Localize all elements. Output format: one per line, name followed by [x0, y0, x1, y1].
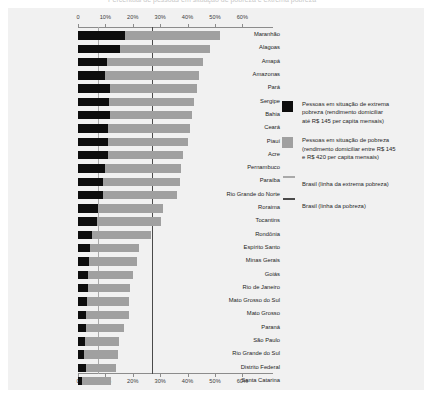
- bar-row: Maranhão: [0, 29, 280, 42]
- category-label: Rondônia: [204, 231, 280, 237]
- category-label: Pará: [204, 84, 280, 90]
- chart-root: Percentual de pessoas em situação de pob…: [0, 0, 424, 399]
- bar-segment-extreme-poverty: [78, 231, 92, 239]
- x-tick-mark-top: [133, 24, 134, 27]
- category-label: Espírito Santo: [204, 244, 280, 250]
- bar-row: Goiás: [0, 268, 280, 281]
- bar-segment-extreme-poverty: [78, 324, 86, 332]
- bar-segment-poverty: [86, 324, 124, 332]
- category-label: Distrito Federal: [204, 364, 280, 370]
- legend-line-label: Brasil (linha da extrema pobreza): [302, 181, 389, 187]
- bar-segment-poverty: [86, 364, 117, 372]
- bar-segment-extreme-poverty: [78, 257, 89, 265]
- bar-row: Mato Grosso do Sul: [0, 295, 280, 308]
- category-label: Roraima: [204, 204, 280, 210]
- bar-segment-poverty: [82, 377, 111, 385]
- axis-line-top: [78, 27, 273, 28]
- x-tick-mark-top: [188, 24, 189, 27]
- bar-row: Rio de Janeiro: [0, 282, 280, 295]
- category-label: Tocantins: [204, 217, 280, 223]
- category-label: Sergipe: [204, 98, 280, 104]
- bar-segment-poverty: [88, 284, 129, 292]
- legend-line-swatch-poverty-icon: [283, 198, 295, 200]
- x-tick-label-top: 60%: [237, 14, 249, 20]
- category-label: Mato Grosso: [204, 310, 280, 316]
- category-label: Paraná: [204, 324, 280, 330]
- bar-row: Alagoas: [0, 42, 280, 55]
- category-label: Goiás: [204, 271, 280, 277]
- bar-segment-extreme-poverty: [78, 204, 98, 212]
- legend-swatch-poverty-icon: [282, 137, 293, 148]
- bar-segment-poverty: [108, 151, 183, 159]
- bar-segment-poverty: [84, 350, 118, 358]
- category-label: Minas Gerais: [204, 257, 280, 263]
- legend-swatch-extreme-icon: [282, 101, 293, 112]
- bar-row: Santa Catarina: [0, 375, 280, 388]
- legend-item-extreme: Pessoas em situação de extremapobreza (r…: [282, 100, 422, 125]
- legend-line-item-poverty: Brasil (linha da pobreza): [282, 194, 422, 204]
- bar-row: Espírito Santo: [0, 242, 280, 255]
- category-label: Rio Grande do Sul: [204, 350, 280, 356]
- bar-row: Amapá: [0, 56, 280, 69]
- bar-segment-extreme-poverty: [78, 191, 103, 199]
- category-label: Mato Grosso do Sul: [204, 297, 280, 303]
- bar-segment-extreme-poverty: [78, 217, 97, 225]
- bar-row: Paraíba: [0, 175, 280, 188]
- bar-row: Acre: [0, 149, 280, 162]
- bar-segment-poverty: [90, 244, 139, 252]
- bar-segment-extreme-poverty: [78, 178, 103, 186]
- legend-line-swatch-extreme-icon: [283, 176, 295, 177]
- bar-segment-poverty: [86, 311, 128, 319]
- category-label: Pernambuco: [204, 164, 280, 170]
- bar-segment-poverty: [89, 257, 137, 265]
- bar-segment-extreme-poverty: [78, 297, 87, 305]
- bar-segment-extreme-poverty: [78, 84, 110, 92]
- category-label: Amazonas: [204, 71, 280, 77]
- bar-row: Rondônia: [0, 228, 280, 241]
- bar-segment-poverty: [98, 204, 164, 212]
- x-tick-mark-top: [242, 24, 243, 27]
- bar-segment-extreme-poverty: [78, 31, 125, 39]
- bar-row: Roraima: [0, 202, 280, 215]
- bar-row: Sergipe: [0, 95, 280, 108]
- bar-row: Bahia: [0, 109, 280, 122]
- bar-rows: MaranhãoAlagoasAmapáAmazonasParáSergipeB…: [0, 29, 280, 388]
- bar-row: Ceará: [0, 122, 280, 135]
- chart-legend: Pessoas em situação de extremapobreza (r…: [282, 100, 422, 216]
- bar-segment-extreme-poverty: [78, 271, 88, 279]
- bar-segment-extreme-poverty: [78, 164, 105, 172]
- x-tick-label-top: 30%: [154, 14, 166, 20]
- category-label: Ceará: [204, 124, 280, 130]
- bar-segment-poverty: [108, 138, 187, 146]
- bar-row: Tocantins: [0, 215, 280, 228]
- x-tick-mark-top: [215, 24, 216, 27]
- x-tick-mark-top: [78, 24, 79, 27]
- chart-title-text: Percentual de pessoas em situação de pob…: [108, 0, 316, 3]
- bar-segment-poverty: [97, 217, 161, 225]
- category-label: Acre: [204, 151, 280, 157]
- bar-segment-poverty: [110, 111, 192, 119]
- bar-row: Mato Grosso: [0, 308, 280, 321]
- x-tick-mark-top: [105, 24, 106, 27]
- bar-row: São Paulo: [0, 335, 280, 348]
- bar-segment-poverty: [125, 31, 221, 39]
- bar-row: Minas Gerais: [0, 255, 280, 268]
- x-tick-label-top: 40%: [182, 14, 194, 20]
- bar-segment-poverty: [103, 191, 177, 199]
- bar-segment-extreme-poverty: [78, 151, 108, 159]
- chart-title-cutoff: Percentual de pessoas em situação de pob…: [0, 0, 424, 7]
- bar-row: Piauí: [0, 135, 280, 148]
- x-tick-label-top: 50%: [209, 14, 221, 20]
- bar-row: Paraná: [0, 322, 280, 335]
- bar-segment-extreme-poverty: [78, 138, 108, 146]
- bar-segment-poverty: [109, 98, 195, 106]
- bar-segment-poverty: [108, 124, 190, 132]
- x-tick-mark-top: [160, 24, 161, 27]
- bar-segment-poverty: [103, 178, 180, 186]
- bar-segment-poverty: [107, 58, 203, 66]
- category-label: Piauí: [204, 138, 280, 144]
- category-label: São Paulo: [204, 337, 280, 343]
- bar-segment-extreme-poverty: [78, 364, 86, 372]
- bar-segment-extreme-poverty: [78, 244, 90, 252]
- bar-segment-poverty: [120, 45, 210, 53]
